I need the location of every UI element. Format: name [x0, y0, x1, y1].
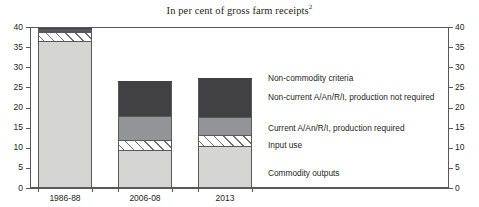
legend-label-current: Current A/An/R/I, production required: [268, 124, 405, 133]
y-axis-tick-label: 30: [455, 63, 479, 72]
y-axis-tick-label: 15: [455, 123, 479, 132]
bar-segment-current: [118, 117, 172, 141]
y-axis-tick: [26, 148, 30, 149]
y-axis-tick: [26, 47, 30, 48]
y-axis-tick: [449, 128, 453, 129]
y-axis-tick-label: 5: [455, 163, 479, 172]
chart-container: In per cent of gross farm receipts2 0510…: [0, 0, 479, 207]
y-axis-tick-label: 10: [0, 143, 23, 152]
bar-top-cap: [118, 81, 172, 82]
x-axis-tick: [38, 188, 39, 192]
y-axis-tick-label: 0: [0, 184, 23, 193]
bar-2013: [198, 0, 252, 188]
bar-segment-commodity-outputs: [38, 42, 92, 188]
x-axis-tick: [118, 188, 119, 192]
y-axis-tick-label: 10: [455, 143, 479, 152]
x-axis-label-2006-08: 2006-08: [105, 194, 185, 203]
y-axis-tick: [26, 168, 30, 169]
y-axis-tick: [449, 27, 453, 28]
bar-segment-input-use: [38, 33, 92, 42]
x-axis-label-2013: 2013: [185, 194, 265, 203]
y-axis-tick: [449, 108, 453, 109]
y-axis-tick-label: 20: [455, 103, 479, 112]
x-axis-label-1986-88: 1986-88: [25, 194, 105, 203]
y-axis-tick-label: 35: [455, 43, 479, 52]
bar-segment-input-use: [118, 141, 172, 151]
bar-1986-88: [38, 0, 92, 188]
y-axis-tick: [26, 27, 30, 28]
y-axis-tick-label: 35: [0, 43, 23, 52]
y-axis-tick-label: 40: [455, 23, 479, 32]
y-axis-tick: [449, 168, 453, 169]
y-axis-tick-label: 0: [455, 184, 479, 193]
y-axis-tick: [449, 67, 453, 68]
y-axis-tick: [26, 128, 30, 129]
legend-label-noncurrent: Non-current A/An/R/I, production not req…: [268, 93, 435, 102]
bar-top-cap: [38, 28, 92, 29]
y-axis-tick: [26, 87, 30, 88]
legend-label-input: Input use: [268, 141, 302, 150]
y-axis-tick: [449, 47, 453, 48]
x-axis-tick: [92, 188, 93, 192]
x-axis-tick: [252, 188, 253, 192]
y-axis-tick-label: 15: [0, 123, 23, 132]
legend-label-noncommodity: Non-commodity criteria: [268, 74, 353, 83]
x-axis-tick: [198, 188, 199, 192]
bar-segment-commodity-outputs: [198, 147, 252, 188]
y-axis-tick-label: 5: [0, 163, 23, 172]
bar-segment-current: [198, 118, 252, 136]
y-axis-tick: [449, 148, 453, 149]
y-axis-tick-label: 20: [0, 103, 23, 112]
bar-segment-input-use: [198, 136, 252, 147]
bar-top-cap: [198, 78, 252, 79]
y-axis-tick-label: 25: [0, 83, 23, 92]
bar-segment-commodity-outputs: [118, 151, 172, 188]
y-axis-tick: [449, 87, 453, 88]
x-axis-tick: [172, 188, 173, 192]
y-axis-tick: [26, 67, 30, 68]
y-axis-tick: [26, 108, 30, 109]
y-axis-tick-label: 25: [455, 83, 479, 92]
bar-segment-noncurrent: [198, 78, 252, 118]
y-axis-tick: [26, 188, 30, 189]
bar-segment-noncurrent: [118, 81, 172, 117]
legend-label-outputs: Commodity outputs: [268, 169, 339, 178]
y-axis-tick: [449, 188, 453, 189]
y-axis-tick-label: 40: [0, 23, 23, 32]
y-axis-tick-label: 30: [0, 63, 23, 72]
bar-2006-08: [118, 0, 172, 188]
